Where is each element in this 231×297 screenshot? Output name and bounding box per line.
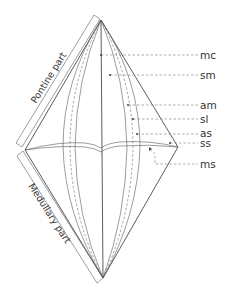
- label-ss: ss: [200, 137, 211, 149]
- label-mc: mc: [200, 49, 216, 61]
- striae-lines: [25, 142, 178, 152]
- leader-ms: [150, 149, 198, 164]
- structure-labels: mc sm am sl as ss ms: [200, 49, 217, 170]
- pontine-part-label: Pontine part: [28, 50, 68, 105]
- label-sm: sm: [200, 69, 216, 81]
- label-ms: ms: [200, 158, 216, 170]
- median-sulcus-line: [101, 20, 103, 278]
- label-sl: sl: [200, 113, 208, 125]
- rhomboid-fossa-diagram: Pontine part Medullary part: [0, 0, 231, 297]
- label-am: am: [200, 99, 217, 111]
- leader-lines: [100, 54, 198, 164]
- pontine-part-bracket: [16, 15, 100, 147]
